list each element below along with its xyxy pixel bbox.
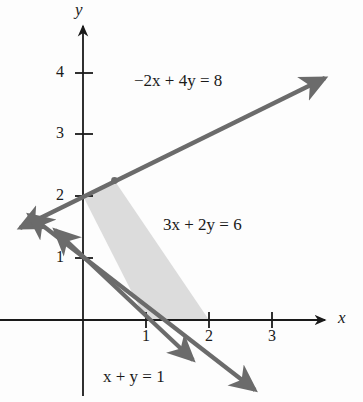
equation-label-lower-line: x + y = 1 [103,367,165,387]
equation-label-upper-line: −2x + 4y = 8 [134,71,222,91]
equation-label-middle-line: 3x + 2y = 6 [163,215,242,235]
x-tick-label-2: 2 [200,327,218,345]
y-tick-label-2: 2 [51,186,69,204]
y-tick-label-4: 4 [51,63,69,81]
vertex-intersection-point [111,177,118,184]
y-tick-label-3: 3 [51,124,69,142]
x-tick-label-3: 3 [263,327,281,345]
y-axis-label: y [75,0,83,20]
shaded-feasible-region [83,181,209,321]
y-tick-label-1: 1 [51,248,69,266]
x-tick-label-1: 1 [137,327,155,345]
line-minus2x-plus-4y-equals-8 [20,78,325,228]
x-axis-label: x [338,308,346,328]
